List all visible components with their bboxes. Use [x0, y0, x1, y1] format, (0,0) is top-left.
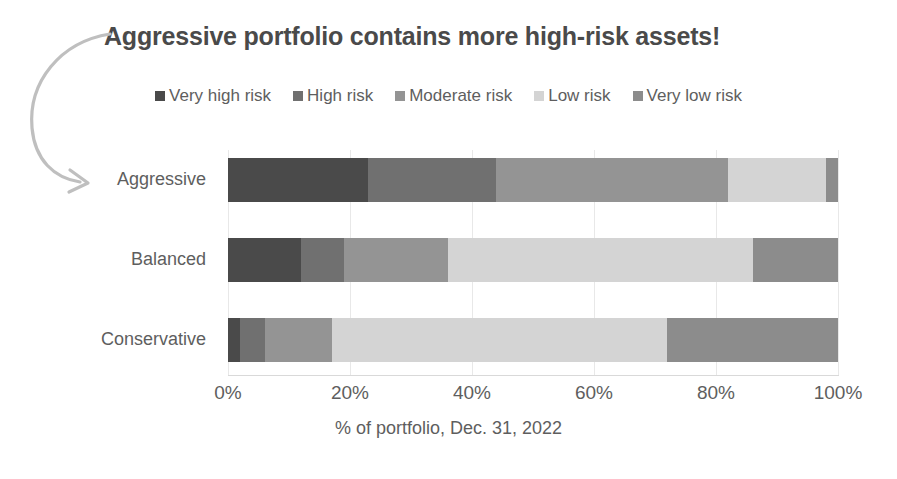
- bar-segment: [753, 238, 838, 282]
- x-axis-line: [228, 375, 839, 376]
- legend-item-moderate-risk: Moderate risk: [395, 86, 512, 106]
- category-label-aggressive: Aggressive: [117, 169, 206, 190]
- x-axis-tick-label: 100%: [814, 382, 863, 404]
- legend-label: High risk: [307, 86, 373, 106]
- legend-swatch-icon: [395, 91, 405, 101]
- x-axis-tick-label: 60%: [575, 382, 613, 404]
- gridline: [838, 150, 839, 375]
- bar-series-container: [228, 150, 838, 375]
- bar-segment: [332, 318, 668, 362]
- x-axis-tick-label: 80%: [697, 382, 735, 404]
- x-axis-tick-label: 40%: [453, 382, 491, 404]
- x-axis-tick-labels: 0%20%40%60%80%100%: [228, 382, 838, 408]
- bar-segment: [496, 158, 728, 202]
- bar-row: [228, 158, 838, 202]
- plot-area: [228, 150, 838, 375]
- bar-row: [228, 238, 838, 282]
- chart-title: Aggressive portfolio contains more high-…: [104, 22, 864, 51]
- bar-segment: [448, 238, 753, 282]
- legend-label: Very high risk: [169, 86, 271, 106]
- legend-item-high-risk: High risk: [293, 86, 373, 106]
- legend-item-low-risk: Low risk: [534, 86, 610, 106]
- bar-row: [228, 318, 838, 362]
- category-label-conservative: Conservative: [101, 329, 206, 350]
- bar-segment: [228, 238, 301, 282]
- legend-swatch-icon: [633, 91, 643, 101]
- bar-segment: [368, 158, 496, 202]
- bar-segment: [728, 158, 826, 202]
- legend-swatch-icon: [293, 91, 303, 101]
- category-label-balanced: Balanced: [131, 249, 206, 270]
- bar-segment: [344, 238, 448, 282]
- legend-item-very-low-risk: Very low risk: [633, 86, 742, 106]
- chart-legend: Very high risk High risk Moderate risk L…: [0, 86, 897, 106]
- bar-segment: [667, 318, 838, 362]
- legend-label: Very low risk: [647, 86, 742, 106]
- x-axis-tick-label: 20%: [331, 382, 369, 404]
- bar-segment: [826, 158, 838, 202]
- bar-segment: [240, 318, 264, 362]
- bar-segment: [228, 158, 368, 202]
- stacked-bar-chart: Aggressive portfolio contains more high-…: [0, 0, 897, 479]
- category-axis-labels: Aggressive Balanced Conservative: [60, 150, 218, 375]
- bar-segment: [228, 318, 240, 362]
- legend-swatch-icon: [534, 91, 544, 101]
- x-axis-tick-label: 0%: [214, 382, 241, 404]
- legend-label: Moderate risk: [409, 86, 512, 106]
- legend-swatch-icon: [155, 91, 165, 101]
- bar-segment: [265, 318, 332, 362]
- legend-item-very-high-risk: Very high risk: [155, 86, 271, 106]
- bar-segment: [301, 238, 344, 282]
- x-axis-title: % of portfolio, Dec. 31, 2022: [0, 418, 897, 439]
- legend-label: Low risk: [548, 86, 610, 106]
